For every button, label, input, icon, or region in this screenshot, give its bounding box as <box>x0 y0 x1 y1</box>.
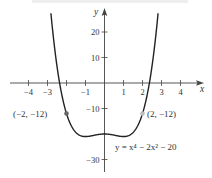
top-strip <box>32 0 188 3</box>
y-axis-label: y <box>93 7 99 17</box>
point-label-left: (−2, −12) <box>13 109 47 119</box>
x-tick-label: −3 <box>43 87 52 97</box>
y-tick-label: −30 <box>86 155 99 165</box>
point-label-right: (2, −12) <box>147 109 176 119</box>
equation-text: y = x⁴ − 2x² − 20 <box>115 142 177 152</box>
y-tick-label: −10 <box>86 104 99 114</box>
x-axis-label: x <box>199 84 205 94</box>
function-graph: −4−3−112342010−10−30 x y (−2, −12) (2, −… <box>0 0 212 178</box>
point-left-marker <box>64 111 69 116</box>
equation-label: y = x⁴ − 2x² − 20 <box>115 142 177 152</box>
x-tick-label: 3 <box>159 87 163 97</box>
x-tick-label: 4 <box>178 87 183 97</box>
point-right-marker <box>140 111 145 116</box>
x-tick-label: −1 <box>81 87 90 97</box>
x-tick-label: 2 <box>140 87 144 97</box>
x-tick-label: −4 <box>24 87 34 97</box>
y-tick-label: 20 <box>91 27 100 37</box>
x-tick-label: 1 <box>121 87 125 97</box>
y-tick-label: 10 <box>91 53 100 63</box>
